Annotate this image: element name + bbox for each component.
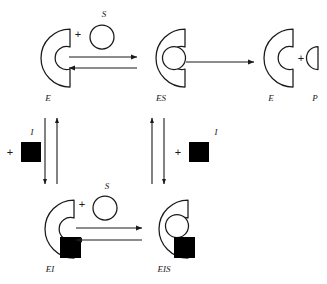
- inhibitor-square-bound-EIS: [174, 237, 195, 258]
- label-S-top: S: [102, 9, 107, 19]
- label-S-bottom: S: [105, 181, 110, 191]
- label-E-right: E: [267, 93, 274, 103]
- substrate-circle-bound-EIS: [166, 215, 189, 238]
- label-EI-bottom: EI: [45, 264, 55, 274]
- diagram-canvas: E + S ES E + P + I + I EI + S: [0, 0, 327, 284]
- label-EIS-bottom: EIS: [157, 264, 171, 274]
- plus-substrate-bottom: +: [79, 198, 85, 210]
- plus-inhibitor-middle: +: [175, 146, 181, 158]
- label-E-top: E: [44, 93, 51, 103]
- plus-inhibitor-left: +: [7, 146, 13, 158]
- substrate-circle-top: [90, 25, 114, 49]
- substrate-circle-bound: [163, 47, 186, 70]
- enzyme-inhibition-diagram: E + S ES E + P + I + I EI + S: [0, 0, 327, 284]
- label-P-right: P: [311, 93, 318, 103]
- plus-product: +: [298, 52, 304, 64]
- label-ES-top: ES: [155, 93, 166, 103]
- inhibitor-square-left: [21, 142, 41, 162]
- inhibitor-square-middle: [189, 142, 209, 162]
- substrate-circle-bottom: [93, 196, 117, 220]
- plus-substrate-top: +: [75, 28, 81, 40]
